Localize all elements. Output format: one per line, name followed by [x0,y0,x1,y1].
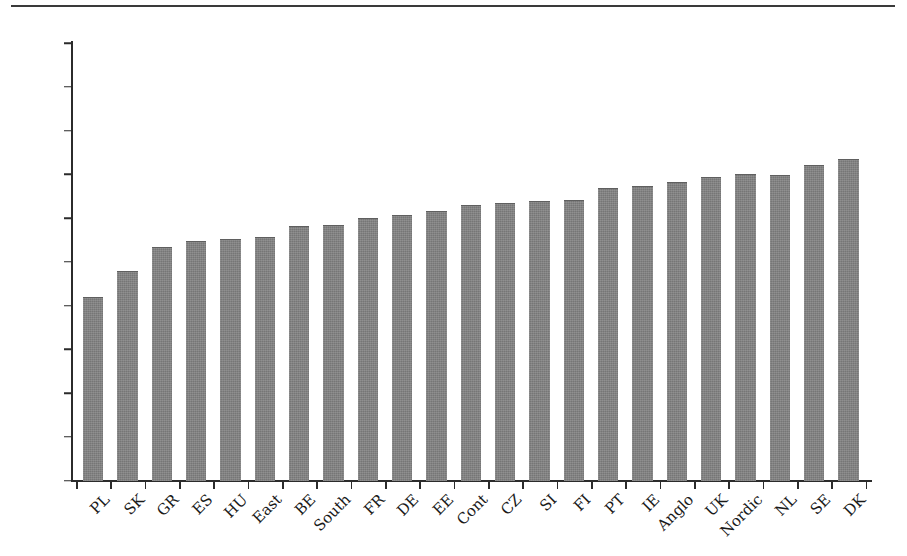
bar [289,226,310,481]
x-tick-mark [522,481,524,489]
bar [83,297,104,480]
x-tick-label-text: Cont [454,492,490,528]
x-tick-mark [454,481,456,489]
x-tick-label-text: FI [571,492,593,514]
bar [495,203,516,481]
x-tick-label-text: SK [121,492,147,518]
x-tick-label-text: GR [154,492,181,519]
x-tick-mark [488,481,490,489]
x-tick-label-text: PT [603,492,628,517]
y-tick-mark [64,42,72,44]
x-tick-label-text: PL [88,492,113,517]
x-tick-label-text: NL [773,492,800,519]
x-tick-label-text: HU [221,492,250,521]
x-tick-mark [831,481,833,489]
bar [152,247,173,480]
bar [358,218,379,481]
x-tick-mark [179,481,181,489]
y-tick-mark [64,86,72,88]
bar [186,241,207,481]
x-tick-mark [282,481,284,489]
x-tick-mark [316,481,318,489]
x-tick-mark [248,481,250,489]
bar [564,200,585,481]
x-tick-mark [660,481,662,489]
y-tick-mark [64,305,72,307]
x-tick-mark [145,481,147,489]
y-tick-mark [64,392,72,394]
bar [529,201,550,481]
y-tick-mark [64,349,72,351]
bar [220,239,241,481]
x-tick-mark [728,481,730,489]
x-tick-mark [763,481,765,489]
y-tick-mark [64,261,72,263]
x-tick-mark [694,481,696,489]
x-tick-mark [625,481,627,489]
x-tick-mark [797,481,799,489]
y-tick-mark [64,436,72,438]
x-tick-label-text: ES [190,492,216,518]
bar [838,159,859,481]
chart-figure: 0102030405060708090100 PLSKGRESHUEastBES… [0,0,907,556]
x-tick-mark [419,481,421,489]
bar [255,237,276,481]
x-tick-label-text: SE [808,492,834,518]
bar [598,188,619,481]
x-tick-mark [591,481,593,489]
x-tick-label-text: East [250,492,284,526]
x-tick-label-text: IE [640,492,663,515]
x-tick-label-text: UK [703,492,730,519]
bar [426,211,447,481]
y-tick-mark [64,480,72,482]
bar [804,165,825,480]
y-tick-mark [64,174,72,176]
bar [667,182,688,480]
x-tick-label-text: CZ [499,492,525,518]
y-tick-mark [64,130,72,132]
bar [117,271,138,480]
x-tick-mark [557,481,559,489]
x-tick-mark [385,481,387,489]
x-tick-mark [351,481,353,489]
bar [461,205,482,481]
x-tick-label-text: DE [395,492,422,519]
y-tick-mark [64,217,72,219]
bar [735,174,756,480]
x-tick-mark [866,481,868,489]
x-tick-label-text: SI [537,492,559,514]
x-tick-mark [213,481,215,489]
x-tick-label-text: FR [361,492,387,518]
bar [323,225,344,481]
x-tick-label-text: South [311,492,353,534]
x-tick-mark [76,481,78,489]
x-tick-label-text: BE [293,492,319,518]
x-tick-label-text: Anglo [655,492,697,534]
bar [701,177,722,480]
bar-chart-plot-area: 0102030405060708090100 PLSKGRESHUEastBES… [0,0,907,556]
x-tick-label-text: EE [430,492,456,518]
bar [632,186,653,480]
x-tick-mark [110,481,112,489]
x-tick-label-text: DK [841,492,868,519]
bar [770,175,791,481]
bar [392,215,413,481]
